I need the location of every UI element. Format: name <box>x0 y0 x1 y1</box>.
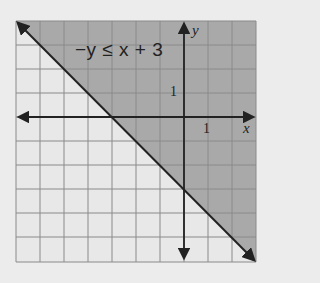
y-tick-label: 1 <box>170 84 177 100</box>
inequality-label: −y ≤ x + 3 <box>75 39 163 61</box>
x-tick-label: 1 <box>203 121 210 137</box>
y-axis-label: y <box>192 22 199 39</box>
x-axis-label: x <box>243 120 250 137</box>
